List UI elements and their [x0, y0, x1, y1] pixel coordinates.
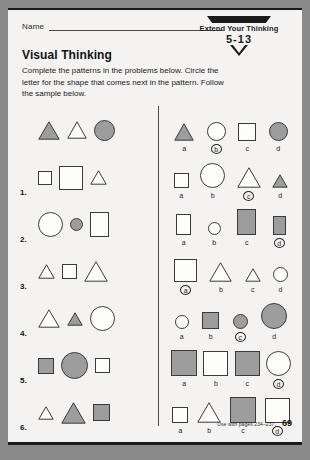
answer-choice-c[interactable]: c	[237, 209, 256, 248]
answer-choice-d[interactable]: d	[261, 303, 287, 342]
row-number: 2.	[20, 235, 31, 248]
answer-choice-b[interactable]: b	[200, 163, 225, 201]
answer-choice-b[interactable]: b	[209, 262, 232, 295]
choice-letter[interactable]: a	[176, 332, 187, 342]
choice-letter-circled[interactable]: c	[235, 332, 246, 342]
answer-choice-d[interactable]: d	[273, 267, 288, 295]
answer-choice-c[interactable]: c	[245, 268, 261, 295]
choice-b-circle-white	[208, 222, 221, 235]
choice-a-rect-white	[176, 214, 191, 235]
choice-letter[interactable]: b	[207, 191, 218, 201]
choice-d-circle-white	[266, 351, 291, 376]
choice-shape	[176, 214, 191, 235]
answer-choice-c[interactable]: c	[237, 167, 261, 201]
answer-choice-c[interactable]: c	[230, 397, 256, 436]
choices-cell: abcd	[158, 295, 302, 342]
choice-letter[interactable]: a	[175, 426, 186, 436]
banner-top-bar-icon	[207, 16, 271, 23]
answer-choice-a[interactable]: a	[174, 123, 194, 154]
choice-letter-circled[interactable]: d	[274, 238, 285, 248]
choice-shape	[171, 350, 197, 376]
problem-row: 5.abcd	[8, 342, 302, 389]
choice-c-square-shaded	[235, 351, 260, 376]
choice-a-square-white	[172, 407, 188, 423]
choice-letter[interactable]: b	[205, 332, 216, 342]
answer-choice-c[interactable]: c	[233, 314, 248, 342]
answer-choice-c[interactable]: c	[238, 123, 256, 154]
choice-letter-circled[interactable]: d	[273, 379, 284, 389]
problem-rows: .abcd1.abcd2.abcd3.abcd4.abcd5.abcd6.abc…	[8, 106, 302, 436]
pattern-shape-1-triangle-shaded	[61, 402, 86, 424]
answer-choice-a[interactable]: a	[176, 214, 191, 248]
answer-choice-a[interactable]: a	[175, 315, 189, 342]
answer-choice-c[interactable]: c	[235, 351, 260, 389]
choice-letter[interactable]: d	[275, 191, 286, 201]
answer-choice-d[interactable]: d	[272, 174, 288, 201]
banner-down-arrow-icon	[230, 45, 248, 56]
choice-shape	[235, 351, 260, 376]
choice-letter[interactable]: a	[179, 379, 190, 389]
banner-lesson-code: 5-13	[184, 33, 294, 45]
choice-letter-circled[interactable]: b	[211, 144, 222, 154]
choice-letter[interactable]: b	[209, 238, 220, 248]
answer-choice-b[interactable]: b	[208, 222, 221, 248]
answer-choice-a[interactable]: a	[174, 259, 197, 295]
choice-shape	[207, 122, 226, 141]
choice-letter[interactable]: c	[242, 379, 253, 389]
pattern-shape-1-triangle-white	[67, 121, 87, 139]
choice-shape	[174, 123, 194, 141]
pattern-shape-0-triangle-white	[38, 309, 60, 328]
answer-choice-d[interactable]: d	[266, 351, 291, 389]
choice-letter[interactable]: b	[215, 285, 226, 295]
choice-letter[interactable]: c	[241, 238, 252, 248]
choice-a-square-white	[174, 173, 189, 188]
choices-cell: abcd	[158, 248, 302, 295]
pattern-shape-2-rect-white	[90, 212, 109, 237]
extend-your-thinking-banner: Extend Your Thinking 5-13	[184, 16, 294, 56]
choice-letter[interactable]: b	[204, 426, 215, 436]
choice-letter[interactable]: d	[269, 332, 280, 342]
choice-letter[interactable]: c	[242, 144, 253, 154]
choice-letter[interactable]: a	[176, 191, 187, 201]
banner-title: Extend Your Thinking	[184, 24, 294, 33]
choice-letter[interactable]: d	[273, 144, 284, 154]
choice-letter[interactable]: d	[275, 285, 286, 295]
choices-cell: abcd	[158, 389, 302, 436]
pattern-shape-1-circle-shaded	[70, 218, 83, 231]
choice-letter[interactable]: c	[247, 285, 258, 295]
page-title: Visual Thinking	[22, 48, 112, 62]
choice-letter-circled[interactable]: c	[243, 191, 254, 201]
row-number: 1.	[20, 188, 31, 201]
choice-d-triangle-shaded	[272, 174, 288, 188]
choice-shape	[261, 303, 287, 329]
answer-choice-d[interactable]: d	[269, 122, 288, 154]
problem-row: 2.abcd	[8, 201, 302, 248]
answer-choice-b[interactable]: b	[207, 122, 226, 154]
choice-c-triangle-white	[245, 268, 261, 282]
answer-choice-d[interactable]: d	[273, 216, 286, 248]
choice-letter[interactable]: b	[210, 379, 221, 389]
choice-shape	[172, 407, 188, 423]
choice-shape	[238, 123, 256, 141]
pattern-cell: .	[8, 106, 158, 154]
pattern-shape-1-triangle-shaded	[67, 312, 83, 326]
choice-shape	[202, 312, 219, 329]
answer-choice-a[interactable]: a	[171, 350, 197, 389]
answer-choice-a[interactable]: a	[174, 173, 189, 201]
choice-a-square-shaded	[171, 350, 197, 376]
pattern-shape-1-square-white	[59, 166, 83, 190]
answer-choice-b[interactable]: b	[202, 312, 219, 342]
choice-d-rect-shaded	[273, 216, 286, 235]
choice-letter[interactable]: a	[179, 144, 190, 154]
answer-choice-a[interactable]: a	[172, 407, 188, 436]
choice-letter-circled[interactable]: a	[180, 285, 191, 295]
choice-a-circle-white	[175, 315, 189, 329]
choice-shape	[266, 351, 291, 376]
answer-choice-b[interactable]: b	[203, 351, 228, 389]
footer-note: Use with pages 234–237.	[217, 421, 276, 427]
pattern-cell: 1.	[8, 154, 158, 201]
answer-choice-d[interactable]: d	[265, 398, 290, 436]
choice-c-rect-shaded	[237, 209, 256, 235]
choice-a-square-white	[174, 259, 197, 282]
choice-letter[interactable]: a	[178, 238, 189, 248]
